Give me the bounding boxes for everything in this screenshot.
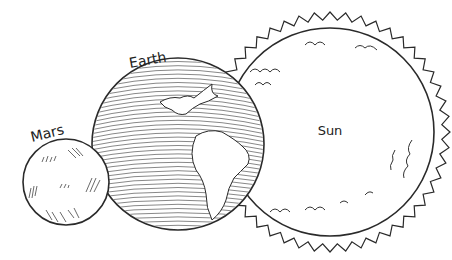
sun-label: Sun: [318, 123, 343, 138]
planets-illustration: Sun Earth Mars: [0, 0, 452, 260]
